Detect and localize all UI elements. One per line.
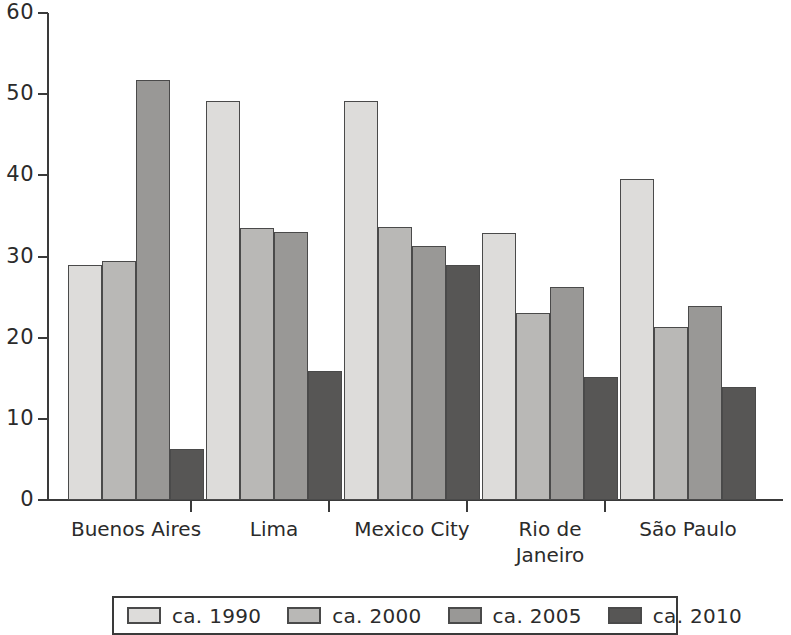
bar: [620, 179, 654, 500]
bar: [308, 371, 342, 500]
legend-item: ca. 2010: [608, 604, 742, 628]
bar-chart: 0102030405060 Buenos AiresLimaMexico Cit…: [0, 0, 791, 635]
bar: [482, 233, 516, 500]
legend-label: ca. 1990: [172, 604, 261, 628]
bar: [722, 387, 756, 500]
bar-group: [68, 13, 204, 500]
bar: [206, 101, 240, 500]
x-axis-tick: [328, 501, 330, 512]
legend-swatch: [287, 607, 321, 624]
bar: [170, 449, 204, 500]
legend-item: ca. 2005: [448, 604, 582, 628]
bar-group: [344, 13, 480, 500]
bar: [550, 287, 584, 500]
bar-group: [482, 13, 618, 500]
plot-area: [47, 13, 783, 500]
y-axis-tick-label: 60: [6, 2, 34, 23]
legend: ca. 1990ca. 2000ca. 2005ca. 2010: [112, 596, 678, 635]
y-axis-tick-label: 50: [6, 83, 34, 104]
bar: [654, 327, 688, 500]
bar: [274, 232, 308, 500]
x-axis-tick: [604, 501, 606, 512]
bar: [344, 101, 378, 500]
y-axis-tick-label: 20: [6, 327, 34, 348]
bar-group: [620, 13, 756, 500]
legend-swatch: [448, 607, 482, 624]
bar: [688, 306, 722, 500]
bar-group: [206, 13, 342, 500]
legend-item: ca. 1990: [127, 604, 261, 628]
bar: [446, 265, 480, 500]
bar: [102, 261, 136, 500]
bar: [240, 228, 274, 500]
y-axis-tick-label: 10: [6, 408, 34, 429]
legend-swatch: [127, 607, 161, 624]
y-axis-tick-label: 0: [20, 489, 34, 510]
bar: [136, 80, 170, 500]
legend-label: ca. 2005: [493, 604, 582, 628]
bar: [68, 265, 102, 500]
y-axis-tick-label: 30: [6, 246, 34, 267]
x-axis-tick: [190, 501, 192, 512]
legend-label: ca. 2010: [653, 604, 742, 628]
bar: [584, 377, 618, 500]
legend-item: ca. 2000: [287, 604, 421, 628]
legend-label: ca. 2000: [332, 604, 421, 628]
x-axis-tick: [466, 501, 468, 512]
bar: [516, 313, 550, 500]
legend-swatch: [608, 607, 642, 624]
bar: [412, 246, 446, 500]
x-axis-category-label: São Paulo: [580, 516, 791, 542]
bar: [378, 227, 412, 500]
y-axis-tick-label: 40: [6, 164, 34, 185]
